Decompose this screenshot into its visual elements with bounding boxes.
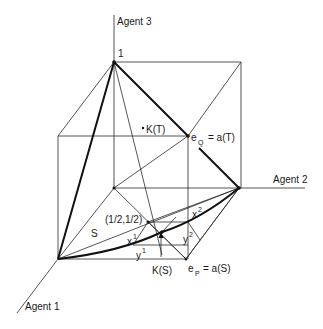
ep-label-rest: = a(S) [203, 263, 231, 274]
bold-lines [58, 62, 239, 259]
x1-label-sup: 1 [133, 233, 137, 240]
half-point [147, 221, 150, 224]
ks-point [160, 230, 164, 234]
cube-diagram: Agent 3 Agent 2 Agent 1 1 e Q = a(T) K(T… [0, 0, 323, 329]
agent2-vertex-point [237, 186, 241, 190]
ep-point [185, 258, 188, 261]
eq-label-rest: = a(T) [208, 132, 235, 143]
top-vertex-point [112, 60, 116, 64]
ep-label-base: e [188, 263, 194, 274]
back-corner-point [113, 187, 116, 190]
y2-label-base: y [183, 234, 188, 245]
x2-label-sup: 2 [198, 206, 202, 213]
y1-label-base: y [136, 250, 141, 261]
y1-label-sup: 1 [142, 247, 146, 254]
eq-label-sub: Q [198, 139, 204, 147]
x2-label-base: x [192, 209, 197, 220]
x1-label-base: x [127, 236, 132, 247]
half-label: (1/2,1/2) [105, 214, 142, 225]
kt-point [142, 127, 144, 129]
ks-label: K(S) [152, 265, 172, 276]
eq-point [186, 134, 190, 138]
bold-edge-eq-to-agent2 [199, 148, 239, 188]
labels: Agent 3 Agent 2 Agent 1 1 e Q = a(T) K(T… [25, 16, 308, 312]
agent2-label: Agent 2 [273, 174, 308, 185]
ep-label-sub: P [195, 270, 200, 277]
bold-edge-1-to-origin [58, 62, 114, 259]
y2-label-sup: 2 [189, 231, 193, 238]
eq-label-base: e [191, 132, 197, 143]
agent1-label: Agent 1 [25, 301, 60, 312]
kt-label: K(T) [146, 124, 165, 135]
s-label: S [91, 228, 98, 239]
top-vertex-label: 1 [118, 48, 124, 59]
agent3-label: Agent 3 [117, 16, 152, 27]
